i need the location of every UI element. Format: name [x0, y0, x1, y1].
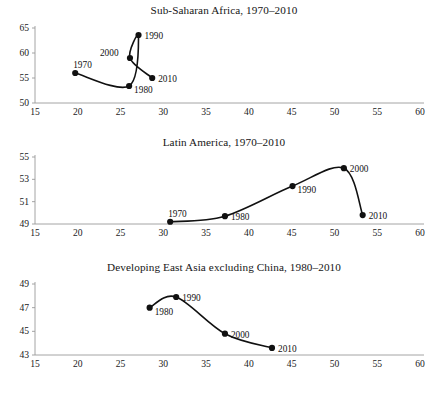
y-tick-label: 60	[7, 47, 29, 58]
chart-panel-developing-east-asia: Developing East Asia excluding China, 19…	[0, 258, 448, 395]
data-point-2010	[360, 212, 366, 218]
y-tick-label: 47	[7, 302, 29, 313]
data-point-1990	[289, 183, 295, 189]
x-tick-label: 40	[237, 358, 261, 369]
x-tick-label: 30	[151, 358, 175, 369]
point-label-2000: 2000	[350, 164, 369, 174]
x-tick-label: 30	[151, 227, 175, 238]
data-markers	[147, 294, 276, 351]
data-line	[150, 296, 272, 348]
x-tick-label: 50	[322, 227, 346, 238]
point-label-2010: 2010	[278, 344, 297, 354]
data-point-1990	[135, 32, 141, 38]
chart-panel-latin-america: Latin America, 1970–2010 495153551520253…	[0, 132, 448, 258]
x-tick-label: 60	[408, 106, 432, 117]
x-tick-label: 15	[23, 106, 47, 117]
x-tick-label: 60	[408, 358, 432, 369]
point-label-1990: 1990	[298, 185, 317, 195]
x-tick-label: 35	[194, 106, 218, 117]
x-tick-label: 25	[109, 106, 133, 117]
data-point-2000	[222, 331, 228, 337]
y-tick-label: 65	[7, 22, 29, 33]
point-label-1970: 1970	[73, 60, 92, 70]
axis-lines	[35, 282, 424, 355]
x-tick-label: 45	[280, 227, 304, 238]
data-point-1970	[167, 219, 173, 225]
chart-panel-sub-saharan-africa: Sub-Saharan Africa, 1970–2010 5055606515…	[0, 0, 448, 132]
data-point-1970	[72, 70, 78, 76]
x-tick-label: 35	[194, 227, 218, 238]
y-tick-label: 45	[7, 325, 29, 336]
data-point-2000	[127, 55, 133, 61]
x-tick-label: 55	[365, 106, 389, 117]
point-label-1990: 1990	[182, 293, 201, 303]
point-label-2000: 2000	[100, 48, 119, 58]
point-label-2000: 2000	[231, 330, 250, 340]
x-tick-label: 15	[23, 358, 47, 369]
x-tick-label: 30	[151, 106, 175, 117]
plot-area	[0, 258, 448, 395]
x-tick-label: 20	[66, 106, 90, 117]
x-tick-label: 20	[66, 358, 90, 369]
data-point-1980	[222, 213, 228, 219]
axis-lines	[35, 26, 424, 103]
point-label-1980: 1980	[231, 212, 250, 222]
data-point-2010	[269, 345, 275, 351]
y-tick-label: 55	[7, 151, 29, 162]
x-tick-label: 45	[280, 106, 304, 117]
y-tick-label: 49	[7, 278, 29, 289]
y-tick-label: 51	[7, 196, 29, 207]
data-line	[170, 167, 363, 222]
x-tick-label: 55	[365, 227, 389, 238]
data-point-1980	[126, 83, 132, 89]
figure-canvas: Sub-Saharan Africa, 1970–2010 5055606515…	[0, 0, 448, 395]
x-tick-label: 40	[237, 227, 261, 238]
point-label-2010: 2010	[369, 211, 388, 221]
point-label-1980: 1980	[155, 307, 174, 317]
x-tick-label: 45	[280, 358, 304, 369]
y-tick-label: 53	[7, 173, 29, 184]
data-point-2010	[149, 75, 155, 81]
point-label-1970: 1970	[168, 209, 187, 219]
y-tick-label: 55	[7, 72, 29, 83]
x-tick-label: 20	[66, 227, 90, 238]
point-label-1990: 1990	[145, 31, 164, 41]
data-point-2000	[341, 165, 347, 171]
x-tick-label: 25	[109, 358, 133, 369]
x-tick-label: 25	[109, 227, 133, 238]
point-label-2010: 2010	[158, 74, 177, 84]
data-point-1980	[147, 305, 153, 311]
x-tick-label: 15	[23, 227, 47, 238]
plot-area	[0, 132, 448, 258]
point-label-1980: 1980	[134, 85, 153, 95]
x-tick-label: 60	[408, 227, 432, 238]
x-tick-label: 55	[365, 358, 389, 369]
x-tick-label: 35	[194, 358, 218, 369]
x-tick-label: 40	[237, 106, 261, 117]
x-tick-label: 50	[322, 106, 346, 117]
data-markers	[167, 165, 366, 225]
x-tick-label: 50	[322, 358, 346, 369]
data-point-1990	[173, 294, 179, 300]
